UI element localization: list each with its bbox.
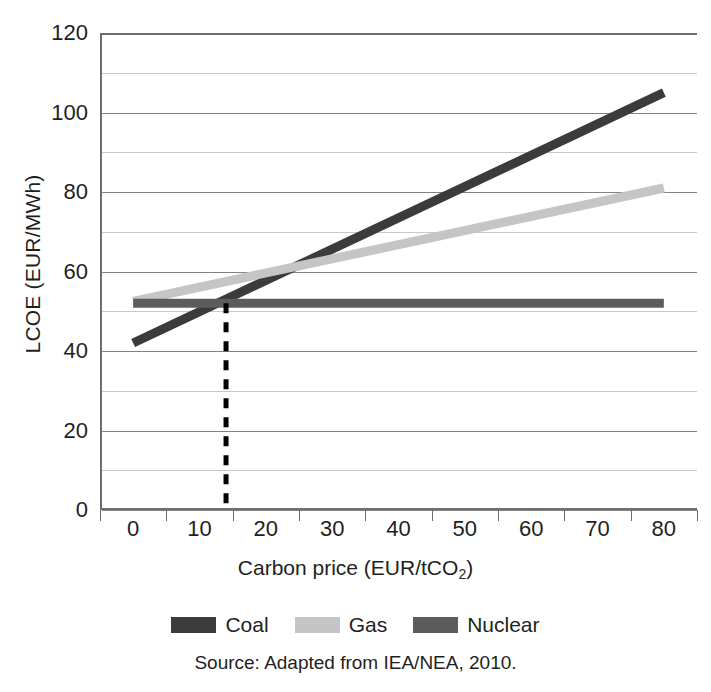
y-axis-tick-label: 120 [30, 22, 88, 44]
x-axis-tick-label: 60 [501, 516, 561, 542]
legend-swatch-nuclear [413, 617, 458, 633]
plot-top-border [102, 33, 697, 35]
y-axis-tick-label: 60 [30, 261, 88, 283]
gridline-minor [102, 311, 697, 312]
gridline-minor [102, 232, 697, 233]
plot-area [100, 33, 697, 510]
gridline-major [102, 192, 697, 193]
x-axis-tick-label: 80 [634, 516, 694, 542]
x-axis-tick-label: 30 [302, 516, 362, 542]
legend-label: Coal [225, 614, 268, 635]
gridline-major [102, 431, 697, 432]
x-axis-title-main: Carbon price (EUR/tCO [238, 556, 459, 579]
x-axis-title-subscript: 2 [458, 566, 466, 582]
gridline-minor [102, 152, 697, 153]
gridline-minor [102, 470, 697, 471]
gridline-major [102, 113, 697, 114]
legend-item-nuclear: Nuclear [413, 614, 539, 635]
legend-label: Gas [349, 614, 388, 635]
gridline-major [102, 272, 697, 273]
x-axis-tick-label: 70 [568, 516, 628, 542]
x-axis-title-tail: ) [466, 556, 473, 579]
legend-item-coal: Coal [171, 614, 268, 635]
source-note: Source: Adapted from IEA/NEA, 2010. [0, 652, 711, 674]
x-axis-tick-label: 20 [236, 516, 296, 542]
y-axis-tick-label: 80 [30, 181, 88, 203]
x-axis-title: Carbon price (EUR/tCO2) [0, 556, 711, 580]
chart-legend: CoalGasNuclear [0, 614, 711, 635]
legend-item-gas: Gas [295, 614, 388, 635]
chart-figure: LCOE (EUR/MWh) 020406080100120 010203040… [0, 0, 711, 692]
legend-label: Nuclear [467, 614, 539, 635]
x-axis-tick-label: 10 [170, 516, 230, 542]
y-axis-tick-labels: 020406080100120 [28, 0, 88, 692]
gridline-minor [102, 391, 697, 392]
gridline-major [102, 351, 697, 352]
y-axis-tick-label: 100 [30, 102, 88, 124]
y-axis-tick-label: 20 [30, 420, 88, 442]
gridline-minor [102, 73, 697, 74]
legend-swatch-gas [295, 617, 340, 633]
legend-swatch-coal [171, 617, 216, 633]
y-axis-tick-label: 40 [30, 340, 88, 362]
x-axis-tick-label: 0 [103, 516, 163, 542]
x-axis-tick-labels: 01020304050607080 [0, 516, 711, 550]
x-axis-tick-label: 50 [435, 516, 495, 542]
x-axis-tick-label: 40 [369, 516, 429, 542]
